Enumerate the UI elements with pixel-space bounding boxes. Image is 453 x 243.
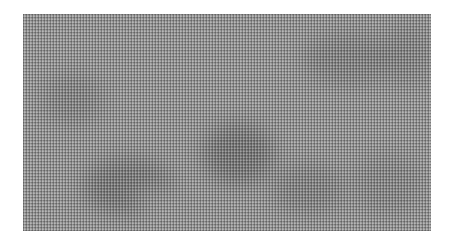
mesh-grid-overlay <box>23 14 431 231</box>
mesh-texture-image <box>23 14 431 231</box>
